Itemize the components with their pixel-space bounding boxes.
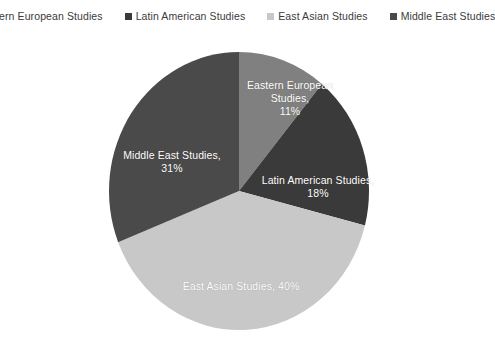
slice-label-eastern-european-studies: Eastern European Studies, 11% (230, 79, 350, 118)
legend-swatch-icon (267, 13, 274, 20)
slice-label-east-asian-studies: East Asian Studies, 40% (156, 280, 326, 293)
slice-label-middle-east-studies: Middle East Studies, 31% (107, 149, 237, 175)
legend-item-label: Middle East Studies (401, 10, 495, 22)
legend-item-east-asian-studies[interactable]: East Asian Studies (267, 10, 367, 22)
chart-legend: Eastern European Studies Latin American … (0, 8, 462, 24)
legend-item-eastern-european-studies[interactable]: Eastern European Studies (0, 10, 103, 22)
legend-item-label: Eastern European Studies (0, 10, 103, 22)
legend-item-label: East Asian Studies (278, 10, 367, 22)
legend-swatch-icon (125, 13, 132, 20)
legend-swatch-icon (390, 13, 397, 20)
legend-item-latin-american-studies[interactable]: Latin American Studies (125, 10, 246, 22)
pie-plot-area: Eastern European Studies, 11% Latin Amer… (108, 51, 370, 331)
legend-item-middle-east-studies[interactable]: Middle East Studies (390, 10, 495, 22)
slice-label-latin-american-studies: Latin American Studies, 18% (254, 174, 382, 200)
legend-item-label: Latin American Studies (136, 10, 246, 22)
